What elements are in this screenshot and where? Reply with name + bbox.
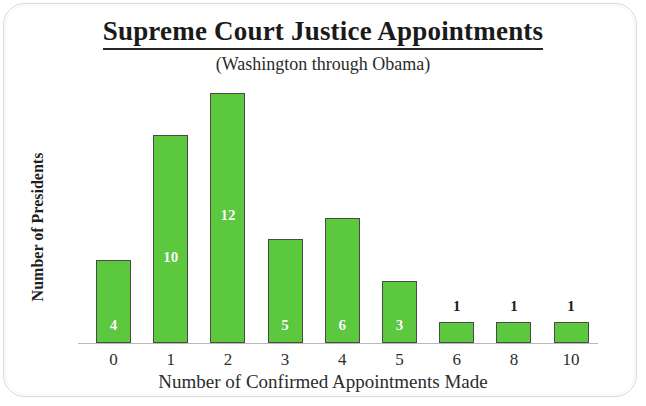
bar [439, 322, 474, 343]
x-tick-label: 8 [496, 350, 531, 370]
x-tick-label: 4 [325, 350, 360, 370]
x-tick-label: 2 [210, 350, 245, 370]
bar [554, 322, 589, 343]
x-tick-label: 3 [268, 350, 303, 370]
bar-value-label: 1 [554, 298, 589, 315]
x-tick-label: 5 [382, 350, 417, 370]
bar [153, 135, 188, 343]
x-tick-label: 10 [554, 350, 589, 370]
bar-value-label: 6 [325, 317, 360, 334]
plot-area: 41012563111 0123456810 [0, 0, 646, 406]
bar-value-label: 12 [210, 207, 245, 224]
x-axis-line [78, 343, 598, 344]
bar-value-label: 5 [268, 317, 303, 334]
chart-page: Supreme Court Justice Appointments (Wash… [0, 0, 646, 406]
x-tick-label: 1 [153, 350, 188, 370]
bar-value-label: 1 [496, 298, 531, 315]
bar [496, 322, 531, 343]
bar-value-label: 1 [439, 298, 474, 315]
bar-value-label: 4 [96, 317, 131, 334]
x-tick-label: 0 [96, 350, 131, 370]
bar-value-label: 3 [382, 317, 417, 334]
x-tick-label: 6 [439, 350, 474, 370]
x-axis-label: Number of Confirmed Appointments Made [0, 371, 646, 393]
bar-value-label: 10 [153, 249, 188, 266]
